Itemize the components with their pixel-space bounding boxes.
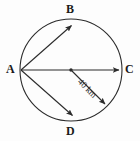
arrow-a-to-d	[21, 70, 73, 116]
point-label-b: B	[66, 3, 74, 15]
point-label-d: D	[66, 125, 75, 137]
point-label-c: C	[125, 63, 134, 75]
point-label-a: A	[6, 63, 15, 75]
circle-geometry-figure: A B C D 40 km	[0, 0, 140, 141]
arrow-a-to-b	[21, 26, 72, 71]
figure-canvas	[0, 0, 140, 141]
